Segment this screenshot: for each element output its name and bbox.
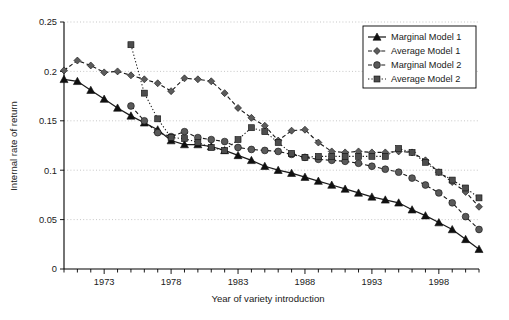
data-point-3-3 xyxy=(168,135,174,141)
series-marginal-model-1 xyxy=(60,75,483,252)
data-point-1-31 xyxy=(476,203,483,210)
data-point-3-4 xyxy=(181,136,187,142)
data-point-1-6 xyxy=(141,76,148,83)
data-point-3-20 xyxy=(396,145,402,151)
series-marginal-model-2 xyxy=(128,103,483,233)
data-point-3-0 xyxy=(128,42,134,48)
data-point-0-14 xyxy=(247,156,255,163)
data-point-3-9 xyxy=(248,125,254,131)
data-point-1-12 xyxy=(221,90,228,97)
data-point-3-5 xyxy=(195,140,201,146)
data-point-3-13 xyxy=(302,154,308,160)
data-point-2-6 xyxy=(208,136,215,143)
x-tick-label-0: 1973 xyxy=(94,277,115,287)
data-point-0-13 xyxy=(234,151,242,158)
data-point-2-25 xyxy=(462,213,469,220)
data-point-3-7 xyxy=(222,147,228,153)
y-axis-title: Internal rate of return xyxy=(8,101,19,191)
data-point-0-31 xyxy=(475,245,483,252)
data-point-2-8 xyxy=(235,144,242,151)
data-point-2-20 xyxy=(395,169,402,176)
data-point-3-12 xyxy=(289,150,295,156)
internal-rate-of-return-line-chart: 00.050.10.150.20.25 19731978198319881993… xyxy=(0,0,509,320)
data-point-2-4 xyxy=(181,128,188,135)
data-point-3-26 xyxy=(476,195,482,201)
data-point-2-19 xyxy=(382,166,389,173)
data-point-2-22 xyxy=(422,182,429,189)
data-point-0-2 xyxy=(87,86,95,93)
legend-label-0: Marginal Model 1 xyxy=(391,32,461,42)
data-point-1-10 xyxy=(194,76,201,83)
data-point-2-23 xyxy=(435,190,442,197)
data-point-1-2 xyxy=(87,62,94,69)
data-point-3-2 xyxy=(155,116,161,122)
y-tick-label-3: 0.15 xyxy=(39,116,57,126)
data-point-0-30 xyxy=(462,235,470,242)
data-point-3-17 xyxy=(356,153,362,159)
data-point-0-26 xyxy=(408,206,416,213)
data-point-1-7 xyxy=(154,80,161,87)
data-point-1-3 xyxy=(101,69,108,76)
data-point-2-18 xyxy=(369,163,376,170)
data-point-3-23 xyxy=(436,169,442,175)
y-axis: 00.050.10.150.20.25 xyxy=(39,17,64,274)
series-line-2 xyxy=(131,106,479,229)
x-tick-label-4: 1993 xyxy=(362,277,383,287)
data-point-2-21 xyxy=(409,175,416,182)
data-point-3-25 xyxy=(463,185,469,191)
data-point-3-11 xyxy=(275,140,281,146)
data-point-2-1 xyxy=(141,117,148,124)
data-point-0-15 xyxy=(261,162,269,169)
chart-legend: Marginal Model 1Average Model 1Marginal … xyxy=(363,26,476,88)
data-point-1-9 xyxy=(181,75,188,82)
data-point-0-5 xyxy=(127,112,135,119)
data-point-3-16 xyxy=(342,153,348,159)
data-point-0-29 xyxy=(448,225,456,232)
data-point-2-7 xyxy=(221,138,228,145)
data-point-3-19 xyxy=(382,153,388,159)
x-tick-label-3: 1988 xyxy=(295,277,316,287)
data-point-3-15 xyxy=(329,153,335,159)
data-point-2-10 xyxy=(261,147,268,154)
data-point-0-0 xyxy=(60,75,68,82)
data-point-2-17 xyxy=(355,160,362,167)
data-point-1-13 xyxy=(235,104,242,111)
data-point-0-3 xyxy=(100,95,108,102)
data-point-3-6 xyxy=(208,144,214,150)
y-tick-label-4: 0.2 xyxy=(44,67,57,77)
data-point-1-4 xyxy=(114,68,121,75)
legend-label-2: Marginal Model 2 xyxy=(391,60,461,70)
legend-label-3: Average Model 2 xyxy=(391,74,460,84)
data-point-1-5 xyxy=(127,72,134,79)
data-point-3-18 xyxy=(369,153,375,159)
data-point-0-27 xyxy=(421,212,429,219)
legend-label-1: Average Model 1 xyxy=(391,46,460,56)
x-tick-label-1: 1978 xyxy=(161,277,182,287)
data-point-3-24 xyxy=(449,177,455,183)
chart-figure: 00.050.10.150.20.25 19731978198319881993… xyxy=(0,0,509,320)
y-tick-label-2: 0.1 xyxy=(44,166,57,176)
data-point-3-22 xyxy=(422,159,428,165)
data-point-2-11 xyxy=(275,148,282,155)
legend-marker-3 xyxy=(374,76,380,82)
x-axis: 197319781983198819931998 xyxy=(64,269,479,287)
y-tick-label-5: 0.25 xyxy=(39,17,57,27)
data-point-3-10 xyxy=(262,129,268,135)
data-point-1-15 xyxy=(261,122,268,129)
data-point-2-9 xyxy=(248,146,255,153)
data-point-2-2 xyxy=(154,129,161,136)
data-point-3-14 xyxy=(315,153,321,159)
data-point-0-4 xyxy=(114,104,122,111)
data-point-3-1 xyxy=(141,90,147,96)
x-axis-title: Year of variety introduction xyxy=(211,293,324,304)
data-point-3-21 xyxy=(409,149,415,155)
data-point-3-8 xyxy=(235,137,241,143)
x-tick-label-5: 1998 xyxy=(428,277,449,287)
y-tick-label-1: 0.05 xyxy=(39,215,57,225)
y-tick-label-0: 0 xyxy=(52,264,57,274)
x-tick-label-2: 1983 xyxy=(228,277,249,287)
data-point-2-26 xyxy=(476,226,483,233)
data-point-2-24 xyxy=(449,199,456,206)
data-point-2-0 xyxy=(128,103,135,110)
legend-marker-2 xyxy=(374,62,381,69)
